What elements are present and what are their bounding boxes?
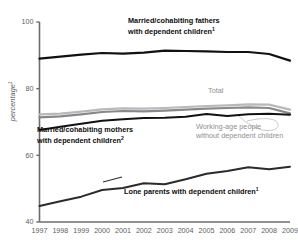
x-axis-tick-label: 1999: [70, 226, 92, 235]
y-axis-title: percentage1: [7, 73, 17, 129]
annotation-lone-parents: Lone parents with dependent children1: [124, 185, 259, 197]
annotation-mothers-line2-text: with dependent children: [37, 137, 121, 146]
annotation-fathers-superscript: 1: [212, 26, 215, 32]
x-axis-tick-label: 1997: [29, 226, 51, 235]
annotation-working-line2: without dependent children: [196, 131, 283, 140]
series-line-1: [40, 104, 291, 114]
x-axis-tick-label: 2005: [196, 226, 218, 235]
x-axis-tick-label: 2008: [258, 226, 280, 235]
y-axis-tick-label: 100: [10, 17, 34, 26]
annotation-fathers-line1: Married/cohabiting fathers: [128, 16, 220, 25]
series-line-0: [40, 51, 291, 61]
annotation-mothers-line1: Married/cohabiting mothers: [37, 125, 133, 134]
annotation-mothers: Married/cohabiting mothers with dependen…: [37, 125, 133, 146]
x-axis-tick-label: 2009: [279, 226, 298, 235]
x-axis-tick-label: 2006: [216, 226, 238, 235]
annotation-mothers-superscript: 2: [121, 135, 124, 141]
x-axis-tick-label: 2002: [133, 226, 155, 235]
annotation-mothers-line2: with dependent children2: [37, 134, 133, 146]
y-axis-tick-label: 60: [10, 151, 34, 160]
lone-parents-leader-line: [103, 177, 122, 182]
annotation-working-age: Working-age people without dependent chi…: [196, 122, 283, 140]
y-axis-tick-label: 80: [10, 84, 34, 93]
x-axis-tick-label: 2001: [112, 226, 134, 235]
annotation-lone-line1: Lone parents with dependent children1: [124, 185, 259, 197]
annotation-working-line1: Working-age people: [196, 122, 283, 131]
annotation-fathers: Married/cohabiting fathers with dependen…: [128, 16, 220, 37]
x-axis-tick-label: 2000: [91, 226, 113, 235]
x-axis-tick-label: 2004: [175, 226, 197, 235]
annotation-lone-line1-text: Lone parents with dependent children: [124, 187, 256, 196]
annotation-fathers-line2: with dependent children1: [128, 25, 220, 37]
x-axis-tick-label: 2003: [154, 226, 176, 235]
chart-container: percentage1 Married/cohabiting fathers w…: [0, 0, 298, 242]
annotation-lone-superscript: 1: [256, 186, 259, 192]
annotation-total: Total: [208, 86, 223, 95]
x-axis-tick-label: 2007: [237, 226, 259, 235]
x-axis-tick-label: 1998: [49, 226, 71, 235]
annotation-fathers-line2-text: with dependent children: [128, 28, 212, 37]
